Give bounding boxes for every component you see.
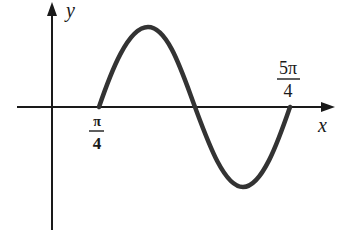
x-axis-arrow-icon (321, 102, 335, 112)
tick-label-denominator: 4 (284, 81, 293, 101)
tick-label-numerator: 5π (279, 58, 297, 78)
y-axis-label: y (64, 0, 75, 22)
tick-label-5pi-over-4: 5π 4 (277, 58, 300, 101)
y-axis-arrow-icon (47, 2, 57, 16)
x-axis-label: x (317, 114, 327, 136)
tick-label-denominator: 4 (93, 134, 102, 153)
sine-graph: y x π 4 5π 4 (0, 0, 339, 236)
tick-label-pi-over-4: π 4 (89, 114, 104, 153)
tick-label-numerator: π (93, 114, 101, 129)
